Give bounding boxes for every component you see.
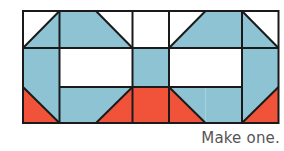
instruction-caption: Make one. <box>170 129 280 147</box>
quilt-fills <box>23 11 279 123</box>
worksheet-panel: Make one. <box>0 0 284 151</box>
